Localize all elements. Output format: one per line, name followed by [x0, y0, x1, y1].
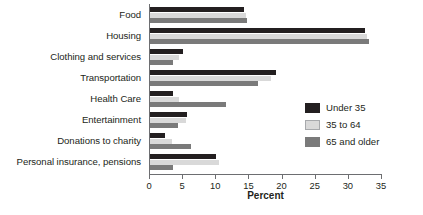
category-axis-labels: FoodHousingClothing and servicesTranspor… [0, 4, 145, 174]
legend-swatch-under-35-icon [305, 103, 320, 113]
bar-1 [150, 160, 219, 165]
bar-2 [150, 165, 173, 170]
legend-item[interactable]: 65 and older [305, 133, 417, 150]
bar-0 [150, 7, 244, 12]
chart-legend: Under 3535 to 6465 and older [305, 99, 417, 150]
bar-0 [150, 70, 276, 75]
x-tick-mark [182, 175, 183, 179]
legend-label: 35 to 64 [326, 119, 361, 130]
category-label: Food [0, 9, 141, 20]
category-label: Housing [0, 30, 141, 41]
x-tick-mark [248, 175, 249, 179]
bar-0 [150, 112, 187, 117]
category-label: Health Care [0, 93, 141, 104]
bar-2 [150, 144, 191, 149]
bar-0 [150, 49, 183, 54]
category-label: Personal insurance, pensions [0, 156, 141, 167]
x-tick-mark [282, 175, 283, 179]
bar-0 [150, 154, 216, 159]
bar-2 [150, 18, 247, 23]
bar-0 [150, 91, 173, 96]
x-tick-mark [381, 175, 382, 179]
bar-2 [150, 60, 173, 65]
legend-item[interactable]: 35 to 64 [305, 116, 417, 133]
bar-1 [150, 76, 271, 81]
x-tick-mark [149, 175, 150, 179]
bar-2 [150, 102, 226, 107]
category-label: Donations to charity [0, 135, 141, 146]
legend-swatch-65-and-older-icon [305, 137, 320, 147]
bar-0 [150, 133, 165, 138]
category-label: Transportation [0, 72, 141, 83]
bar-2 [150, 123, 178, 128]
legend-swatch-35-to-64-icon [305, 120, 320, 130]
bar-2 [150, 39, 369, 44]
bar-1 [150, 55, 179, 60]
bar-1 [150, 13, 246, 18]
bar-1 [150, 97, 179, 102]
bar-1 [150, 139, 172, 144]
bar-1 [150, 118, 186, 123]
x-tick-mark [215, 175, 216, 179]
x-axis-title: Percent [149, 190, 382, 201]
category-label: Entertainment [0, 114, 141, 125]
bar-chart: FoodHousingClothing and servicesTranspor… [0, 0, 423, 215]
legend-label: 65 and older [326, 136, 379, 147]
category-label: Clothing and services [0, 51, 141, 62]
x-tick-mark [348, 175, 349, 179]
bar-1 [150, 34, 367, 39]
x-tick-mark [315, 175, 316, 179]
legend-item[interactable]: Under 35 [305, 99, 417, 116]
bar-2 [150, 81, 258, 86]
bar-0 [150, 28, 365, 33]
legend-label: Under 35 [326, 102, 365, 113]
